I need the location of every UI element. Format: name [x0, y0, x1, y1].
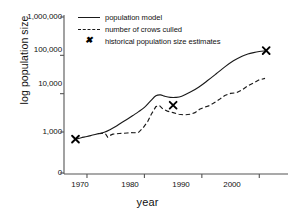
- plot-area: [0, 0, 295, 219]
- y-axis-ticks: [60, 17, 64, 173]
- historical-estimate-markers: [72, 47, 269, 142]
- chart-figure: log population size year 1,000,000 100,0…: [0, 0, 295, 219]
- x-axis-ticks: [87, 174, 259, 178]
- population-model-line: [75, 51, 265, 139]
- crows-culled-line: [98, 78, 265, 137]
- axis-lines: [64, 15, 288, 174]
